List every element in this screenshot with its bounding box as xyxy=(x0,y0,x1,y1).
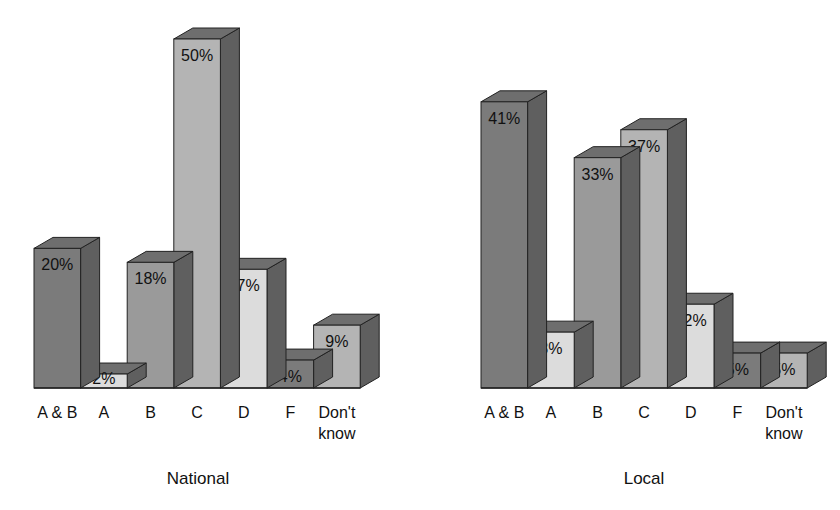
category-label: B xyxy=(592,404,603,421)
category-label: Don't xyxy=(765,404,802,421)
category-label: A xyxy=(546,404,557,421)
chart-figure: 9%4%17%50%18%2%20%A & BABCDFDon'tknowNat… xyxy=(0,0,840,510)
bar-side xyxy=(621,147,640,388)
category-label: F xyxy=(732,404,742,421)
category-label: C xyxy=(638,404,650,421)
bar-side xyxy=(528,91,547,388)
bar-side xyxy=(714,293,733,388)
category-label: A & B xyxy=(484,404,524,421)
bar-side xyxy=(574,321,593,388)
bar-value-label: 41% xyxy=(488,110,520,127)
category-label: D xyxy=(685,404,697,421)
bar-value-label: 33% xyxy=(581,166,613,183)
chart-title: Local xyxy=(624,469,665,488)
bar-face xyxy=(481,102,528,388)
bar: 41% xyxy=(481,91,547,388)
local-bar-chart: 5%5%12%37%33%8%41%A & BABCDFDon'tknowLoc… xyxy=(0,0,840,510)
bar-side xyxy=(667,119,686,388)
category-label: know xyxy=(765,425,803,442)
